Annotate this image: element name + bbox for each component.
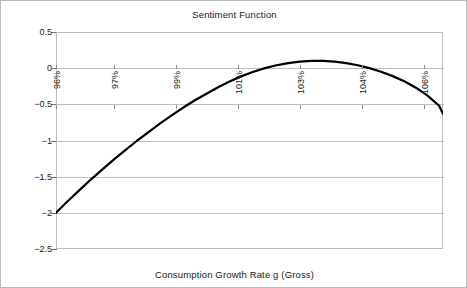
x-axis-tick-label: 103% [296, 71, 306, 94]
x-axis-tick-label: 96% [52, 71, 62, 89]
chart-title: Sentiment Function [1, 9, 467, 20]
x-axis-tick-mark [238, 65, 239, 69]
y-axis-tick-marks [1, 32, 56, 249]
x-axis-tick-label: 104% [358, 71, 368, 94]
x-axis-tick-mark [56, 65, 57, 69]
x-axis-tick-label: 106% [420, 71, 430, 94]
x-axis-tick-marks-top [56, 65, 443, 70]
x-axis-tick-labels: 96%97%99%101%103%104%106% [56, 71, 443, 111]
x-axis-tick-mark [424, 65, 425, 69]
x-axis-tick-mark [114, 65, 115, 69]
x-axis-tick-label: 99% [172, 71, 182, 89]
chart-figure: Sentiment Function 0.50−0.5−1−1.5−2−2.5 … [0, 0, 467, 288]
x-axis-title: Consumption Growth Rate g (Gross) [1, 269, 467, 280]
x-axis-tick-mark [362, 65, 363, 69]
x-axis-tick-mark [176, 65, 177, 69]
x-axis-tick-label: 97% [110, 71, 120, 89]
x-axis-tick-label: 101% [234, 71, 244, 94]
x-axis-tick-mark [300, 65, 301, 69]
